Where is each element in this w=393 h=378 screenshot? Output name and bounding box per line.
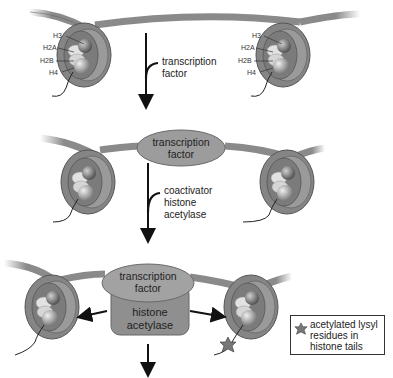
oval-label-transcription-factor-2: transcription factor	[137, 136, 225, 160]
oval-label-transcription-factor-3: transcription factor	[104, 270, 192, 294]
histone-label-h4-right: H4	[247, 69, 256, 77]
legend-box: acetylated lysyl residues in histone tai…	[290, 315, 385, 355]
arrow-label-transcription-factor: transcription factor	[162, 56, 216, 80]
histone-label-h2a-left: H2A	[43, 44, 57, 52]
histone-label-h4-left: H4	[49, 69, 58, 77]
arrow-right-3	[190, 311, 219, 316]
nucleosome-left-2	[61, 150, 115, 214]
nucleosome-right-2	[260, 150, 314, 214]
nucleosome-left-1	[57, 23, 111, 87]
histone-label-h3-right: H3	[252, 32, 261, 40]
histone-label-h3-left: H3	[53, 32, 62, 40]
arrow-left-3	[84, 311, 107, 316]
acetyl-star-icon	[294, 322, 308, 336]
nucleosome-right-3	[224, 275, 278, 339]
histone-label-h2b-left: H2B	[40, 57, 54, 65]
block-label-histone-acetylase: histone acetylase	[111, 306, 189, 332]
histone-label-h2b-right: H2B	[238, 57, 252, 65]
nucleosome-right-1	[256, 23, 310, 87]
histone-label-h2a-right: H2A	[241, 44, 255, 52]
nucleosome-left-3	[25, 275, 79, 339]
arrow-label-coactivator: coactivator histone acetylase	[164, 185, 212, 221]
legend-text: acetylated lysyl residues in histone tai…	[310, 319, 378, 352]
